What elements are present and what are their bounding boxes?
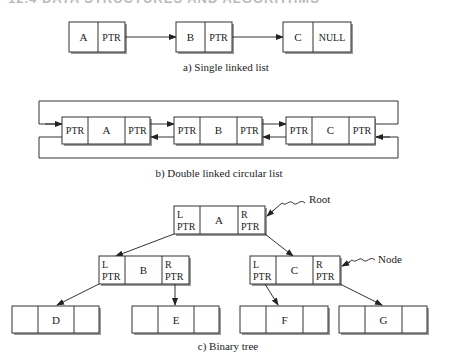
edge-b-d bbox=[57, 284, 99, 305]
next-pointer: PTR bbox=[353, 125, 372, 136]
caption-single-list: a) Single linked list bbox=[183, 61, 269, 74]
right-ptr-label: R bbox=[241, 209, 248, 220]
node-pointer: PTR bbox=[209, 32, 228, 43]
double-node-b: PTR B PTR bbox=[174, 117, 264, 146]
double-node-c: PTR C PTR bbox=[286, 117, 376, 146]
binary-tree: L PTR A R PTR Root L PTR B R PTR bbox=[12, 193, 429, 353]
node-value: C bbox=[327, 124, 334, 136]
single-node-b: B PTR bbox=[176, 22, 234, 54]
node-value: A bbox=[80, 31, 88, 43]
tree-leaf-e: E bbox=[132, 306, 221, 335]
tree-node-c: L PTR C R PTR bbox=[250, 256, 342, 286]
node-pointer: PTR bbox=[102, 32, 121, 43]
right-ptr-label: R bbox=[316, 259, 323, 270]
node-label: Node bbox=[378, 253, 402, 265]
left-ptr-label: L bbox=[253, 259, 259, 270]
single-node-c: C NULL bbox=[283, 22, 353, 54]
node-value: B bbox=[187, 31, 194, 43]
edge-a-c bbox=[265, 234, 293, 256]
tree-leaf-g: G bbox=[339, 306, 429, 335]
node-value: C bbox=[294, 31, 301, 43]
node-value: G bbox=[380, 314, 388, 326]
tree-leaf-f: F bbox=[240, 306, 330, 335]
left-ptr-label: PTR bbox=[102, 271, 121, 282]
node-value: C bbox=[291, 264, 298, 276]
root-label: Root bbox=[309, 193, 330, 205]
tree-node-a: L PTR A R PTR bbox=[174, 206, 267, 236]
left-ptr-label: PTR bbox=[253, 271, 272, 282]
left-ptr-label: L bbox=[102, 259, 108, 270]
right-ptr-label: PTR bbox=[241, 221, 260, 232]
caption-binary-tree: c) Binary tree bbox=[198, 340, 259, 353]
prev-pointer: PTR bbox=[66, 125, 85, 136]
node-value: E bbox=[173, 314, 180, 326]
node-value: B bbox=[140, 264, 147, 276]
caption-double-list: b) Double linked circular list bbox=[155, 167, 282, 180]
root-pointer-squiggle bbox=[268, 201, 305, 215]
left-ptr-label: L bbox=[177, 209, 183, 220]
double-linked-circular-list: PTR A PTR PTR B PTR PTR C PTR b) D bbox=[39, 101, 398, 180]
edge-c-f bbox=[265, 284, 278, 305]
right-ptr-label: R bbox=[165, 259, 172, 270]
prev-pointer: PTR bbox=[178, 125, 197, 136]
edge-a-b bbox=[116, 234, 174, 256]
right-ptr-label: PTR bbox=[165, 271, 184, 282]
next-pointer: PTR bbox=[128, 125, 147, 136]
node-value: B bbox=[215, 124, 222, 136]
single-linked-list: A PTR B PTR C NULL a) Single linked list bbox=[69, 22, 353, 74]
node-value: D bbox=[52, 314, 60, 326]
left-ptr-label: PTR bbox=[177, 221, 196, 232]
node-pointer-squiggle bbox=[343, 258, 375, 266]
single-node-a: A PTR bbox=[69, 22, 127, 54]
tree-leaf-d: D bbox=[12, 306, 101, 335]
node-value: A bbox=[103, 124, 111, 136]
edge-c-g bbox=[340, 284, 382, 305]
prev-pointer: PTR bbox=[290, 125, 309, 136]
node-value: F bbox=[281, 314, 287, 326]
right-ptr-label: PTR bbox=[316, 271, 335, 282]
node-value: A bbox=[215, 214, 223, 226]
tree-node-b: L PTR B R PTR bbox=[99, 256, 191, 286]
node-pointer: NULL bbox=[319, 32, 346, 43]
next-pointer: PTR bbox=[240, 125, 259, 136]
double-node-a: PTR A PTR bbox=[62, 117, 152, 146]
